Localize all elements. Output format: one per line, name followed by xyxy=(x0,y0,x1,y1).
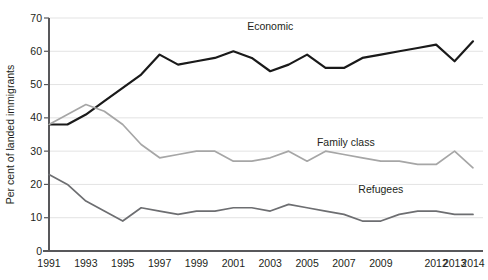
x-axis-tick-label: 2005 xyxy=(295,257,319,269)
y-axis-tick-label: 0 xyxy=(36,245,42,257)
x-axis-tick-label: 2007 xyxy=(332,257,356,269)
series-line-economic xyxy=(49,41,473,124)
x-axis-tick-label: 1995 xyxy=(111,257,135,269)
series-line-refugees xyxy=(49,174,473,221)
series-label-refugees: Refugees xyxy=(358,183,403,195)
x-axis-tick-label: 1997 xyxy=(148,257,172,269)
y-axis-tick-label: 10 xyxy=(30,211,42,223)
x-axis-tick-label: 2014 xyxy=(461,257,485,269)
y-axis-tick-label: 30 xyxy=(30,145,42,157)
x-axis-tick-label: 2009 xyxy=(369,257,393,269)
series-annotations-group: EconomicEconomicFamily classFamily class… xyxy=(247,20,403,195)
series-lines-group xyxy=(49,41,473,221)
line-chart-container: 010203040506070 199119931995199719992001… xyxy=(0,0,488,280)
y-axis-tick-label: 70 xyxy=(30,12,42,24)
series-label-economic: Economic xyxy=(247,20,293,32)
y-axis-tick-label: 60 xyxy=(30,45,42,57)
series-line-family-class xyxy=(49,105,473,168)
y-axis-tick-label: 20 xyxy=(30,178,42,190)
y-axis-ticks-group: 010203040506070 xyxy=(30,12,49,257)
y-axis-tick-label: 40 xyxy=(30,111,42,123)
x-axis-tick-label: 1993 xyxy=(74,257,98,269)
x-axis-tick-label: 1999 xyxy=(185,257,209,269)
series-label-family-class: Family class xyxy=(317,136,375,148)
x-axis-ticks-group: 1991199319951997199920012003200520072009… xyxy=(37,245,485,269)
y-axis-title-group: Per cent of landed immigrants xyxy=(4,65,16,204)
x-axis-tick-label: 2003 xyxy=(259,257,283,269)
line-chart-canvas: 010203040506070 199119931995199719992001… xyxy=(0,0,488,280)
x-axis-tick-label: 2001 xyxy=(222,257,246,269)
x-axis-tick-label: 1991 xyxy=(37,257,61,269)
y-axis-title: Per cent of landed immigrants xyxy=(4,65,16,204)
y-axis-tick-label: 50 xyxy=(30,78,42,90)
axes-group xyxy=(43,18,483,251)
